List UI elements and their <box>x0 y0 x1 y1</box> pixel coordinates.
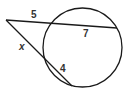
label-upper-internal: 7 <box>83 28 89 39</box>
circle <box>43 8 122 87</box>
label-lower-external: x <box>18 41 25 52</box>
label-upper-external: 5 <box>31 9 37 20</box>
lower-secant <box>6 20 72 86</box>
secant-diagram: 5 7 x 4 <box>0 0 124 92</box>
upper-secant <box>6 20 117 28</box>
label-lower-internal: 4 <box>60 63 66 74</box>
